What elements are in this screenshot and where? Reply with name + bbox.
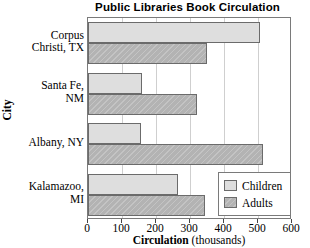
- bar-children: [88, 22, 260, 43]
- bar-children: [88, 73, 142, 94]
- legend-label-children: Children: [242, 180, 282, 192]
- y-axis-label: Santa Fe,NM: [0, 79, 84, 104]
- y-axis-category-labels: CorpusChristi, TXSanta Fe,NMAlbany, NYKa…: [0, 17, 84, 219]
- y-axis-label-line: Corpus: [0, 29, 84, 42]
- bar-adults: [88, 144, 263, 165]
- bar-children: [88, 123, 141, 144]
- y-axis-label-line: Albany, NY: [0, 136, 84, 149]
- y-axis-label: Albany, NY: [0, 136, 84, 149]
- y-axis-label-line: NM: [0, 92, 84, 105]
- legend-swatch-children-icon: [224, 180, 237, 191]
- x-axis-title: Circulation (thousands): [87, 234, 291, 247]
- chart-root: Public Libraries Book Circulation City C…: [0, 0, 310, 248]
- y-axis-label-line: Santa Fe,: [0, 79, 84, 92]
- x-axis-title-bold: Circulation: [133, 234, 189, 246]
- y-axis-label-line: MI: [0, 193, 84, 206]
- bar-adults: [88, 43, 207, 64]
- x-axis-title-units: (thousands): [192, 234, 246, 246]
- y-axis-label-line: Kalamazoo,: [0, 180, 84, 193]
- legend: Children Adults: [218, 172, 291, 216]
- bar-children: [88, 174, 178, 195]
- y-axis-label: CorpusChristi, TX: [0, 29, 84, 54]
- legend-item-adults[interactable]: Adults: [224, 194, 290, 211]
- legend-label-adults: Adults: [242, 197, 273, 209]
- y-axis-label-line: Christi, TX: [0, 41, 84, 54]
- chart-title: Public Libraries Book Circulation: [70, 1, 305, 14]
- y-axis-label: Kalamazoo,MI: [0, 180, 84, 205]
- legend-item-children[interactable]: Children: [224, 177, 290, 194]
- bar-adults: [88, 94, 197, 115]
- bar-adults: [88, 195, 205, 216]
- legend-swatch-adults-icon: [224, 197, 237, 208]
